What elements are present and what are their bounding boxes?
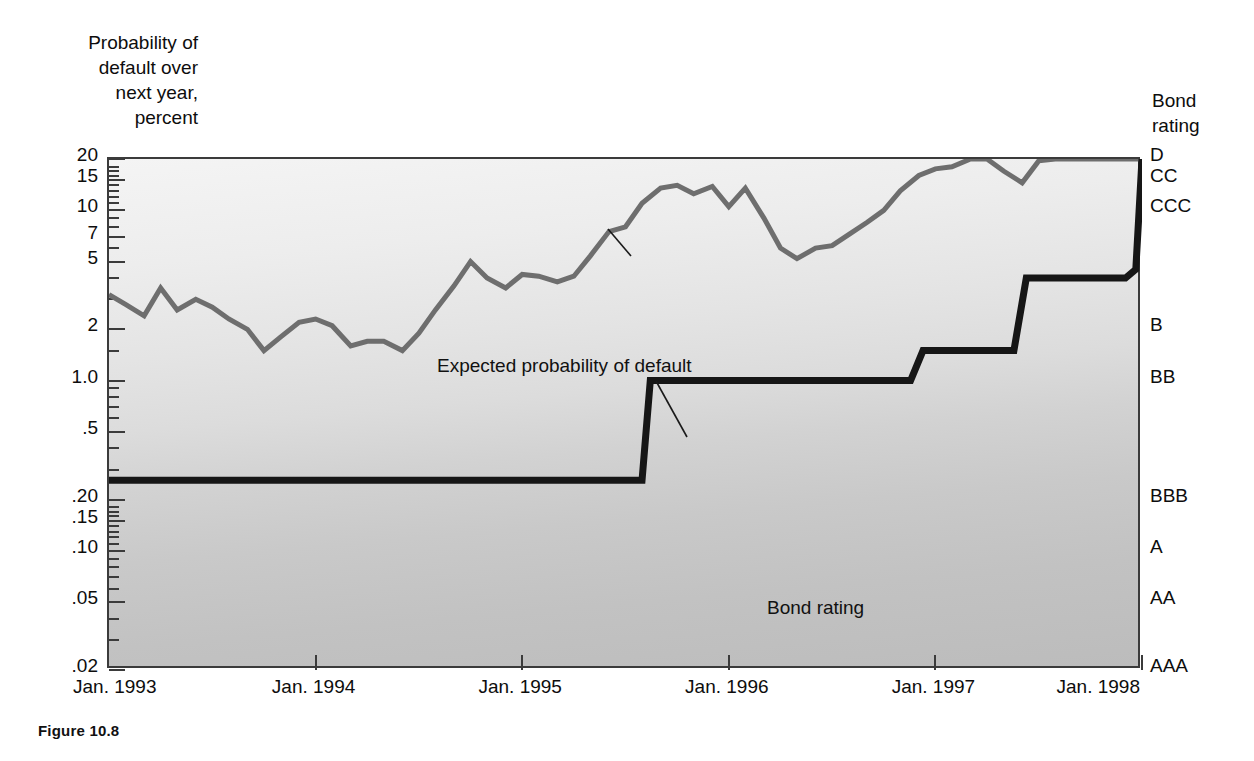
bond-rating-label: BBB: [1150, 485, 1188, 507]
x-axis-tick-labels: Jan. 1993Jan. 1994Jan. 1995Jan. 1996Jan.…: [0, 676, 1254, 710]
y-tick-label: 5: [87, 247, 98, 269]
bond-rating-label: A: [1150, 536, 1163, 558]
expected-default-series: [109, 159, 1142, 351]
bond-rating-label: AA: [1150, 587, 1175, 609]
annotation-bond-rating: Bond rating: [767, 597, 864, 619]
y-tick-label: .15: [72, 506, 98, 528]
bond-rating-label: CCC: [1150, 195, 1191, 217]
bond-rating-label: B: [1150, 314, 1163, 336]
x-tick-label: Jan. 1994: [272, 676, 355, 698]
bond-rating-label: CC: [1150, 165, 1177, 187]
bond-rating-label: AAA: [1150, 655, 1188, 677]
y-tick-label: .10: [72, 536, 98, 558]
figure-caption: Figure 10.8: [38, 722, 119, 739]
y-axis-tick-labels: 2015107521.0.5.20.15.10.05.02: [0, 0, 104, 761]
bond-rating-label: BB: [1150, 366, 1175, 388]
y-tick-label: .5: [82, 417, 98, 439]
bond-rating-labels: AAAAAABBBBBBCCCCCD: [1150, 0, 1254, 761]
y-tick-label: .20: [72, 485, 98, 507]
figure-container: Probability of default over next year, p…: [0, 0, 1254, 761]
y-tick-label: 15: [77, 165, 98, 187]
annotation-expected-default: Expected probability of default: [437, 355, 692, 377]
y-tick-label: 7: [87, 222, 98, 244]
y-tick-label: 2: [87, 314, 98, 336]
y-tick-label: 10: [77, 195, 98, 217]
x-tick-label: Jan. 1993: [73, 676, 156, 698]
bond-rating-label: D: [1150, 144, 1164, 166]
bond-rating-series: [109, 159, 1142, 480]
leader-line-bond-rating: [656, 381, 687, 437]
chart-svg: [109, 159, 1142, 670]
y-tick-label: .05: [72, 587, 98, 609]
y-tick-label: 20: [77, 144, 98, 166]
leader-line-expected-default: [608, 229, 631, 256]
y-tick-label: .02: [72, 655, 98, 677]
x-tick-label: Jan. 1995: [478, 676, 561, 698]
plot-area: Expected probability of default Bond rat…: [107, 157, 1140, 668]
y-tick-label: 1.0: [72, 366, 98, 388]
x-tick-label: Jan. 1998: [1057, 676, 1140, 698]
x-tick-label: Jan. 1997: [892, 676, 975, 698]
x-tick-label: Jan. 1996: [685, 676, 768, 698]
